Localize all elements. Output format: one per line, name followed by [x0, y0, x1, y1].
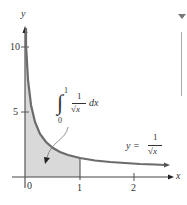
curve-label-denominator: √x	[148, 146, 157, 156]
x-tick-label-2: 2	[131, 182, 136, 193]
integrand-differential: dx	[89, 97, 98, 108]
curve-label-lhs: y =	[126, 140, 140, 151]
x-axis-label: x	[176, 170, 180, 181]
integrand-denominator: √x	[71, 104, 80, 114]
x-tick-label-1: 1	[77, 182, 82, 193]
scrollbar-track[interactable]	[181, 32, 182, 96]
curve-arrow-icon	[164, 163, 170, 168]
y-axis-label: y	[21, 8, 25, 19]
integral-lower-limit: 0	[58, 116, 62, 125]
y-tick-label-10: 10	[10, 41, 20, 52]
integral-sign: ∫	[57, 92, 63, 114]
curve-label: y = 1 √x	[126, 132, 176, 162]
scroll-down-arrow-icon[interactable]	[178, 14, 186, 19]
y-tick-label-5: 5	[13, 106, 18, 117]
curve-label-numerator: 1	[153, 132, 158, 142]
x-tick-label-0: 0	[27, 180, 32, 191]
x-axis-arrow-icon	[168, 175, 174, 180]
integral-annotation: ∫ 1 0 1 √x dx	[55, 88, 105, 128]
integrand-numerator: 1	[77, 91, 82, 101]
integral-upper-limit: 1	[64, 86, 68, 95]
